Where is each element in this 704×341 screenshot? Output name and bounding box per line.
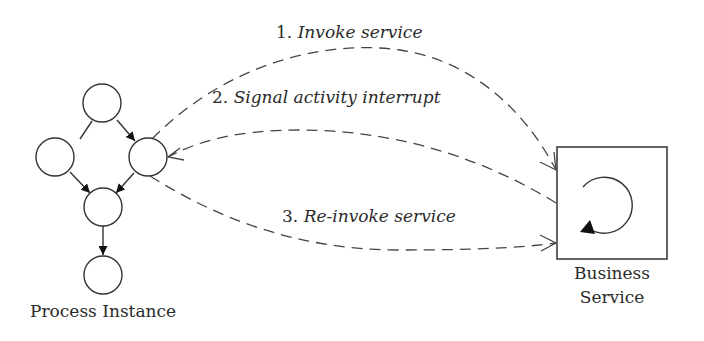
business-service-box[interactable] bbox=[557, 147, 667, 259]
message-1-label: 1. Invoke service bbox=[276, 22, 422, 42]
message-2-signal bbox=[168, 130, 556, 203]
process-node-left[interactable] bbox=[36, 138, 74, 176]
message-3-label: 3. Re-invoke service bbox=[282, 206, 456, 226]
business-service-label-line2: Service bbox=[580, 287, 644, 307]
edge-top-to-left bbox=[80, 121, 92, 139]
process-instance bbox=[36, 84, 167, 294]
process-node-top[interactable] bbox=[83, 84, 121, 122]
business-service-label-line1: Business bbox=[574, 263, 650, 283]
process-node-right[interactable] bbox=[129, 138, 167, 176]
message-2-label: 2. Signal activity interrupt bbox=[212, 87, 441, 107]
diagram-canvas: Process Instance Business Service 1. Inv… bbox=[0, 0, 704, 341]
process-node-middle[interactable] bbox=[84, 188, 122, 226]
edge-right-to-middle bbox=[116, 173, 134, 193]
business-service bbox=[557, 147, 667, 259]
process-instance-label: Process Instance bbox=[30, 301, 176, 321]
process-node-bottom[interactable] bbox=[84, 256, 122, 294]
message-1-invoke bbox=[152, 48, 556, 170]
edge-left-to-middle bbox=[70, 172, 90, 193]
edge-top-to-right bbox=[117, 120, 135, 141]
